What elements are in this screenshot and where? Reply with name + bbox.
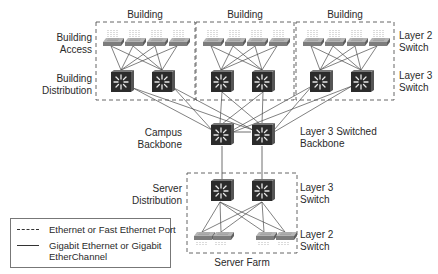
- building-label-3: Building: [320, 9, 370, 21]
- switched-backbone-label: Layer 3 Switched Backbone: [300, 126, 377, 149]
- building-distribution-label: Building Distribution: [20, 73, 92, 96]
- layer3-switch-label: Layer 3 Switch: [399, 70, 432, 93]
- server-access-switches: [194, 232, 297, 246]
- campus-backbone-label: Campus Backbone: [110, 127, 182, 150]
- server-layer3-switch-label: Layer 3 Switch: [300, 182, 333, 205]
- access-distribution-links: [111, 46, 377, 70]
- dashed-line-swatch: [17, 229, 39, 230]
- building-label-1: Building: [120, 9, 170, 21]
- building-access-switches: [103, 30, 390, 46]
- server-distribution-label: Server Distribution: [110, 183, 182, 206]
- building-access-label: Building Access: [20, 32, 92, 55]
- server-layer2-switch-label: Layer 2 Switch: [300, 229, 333, 252]
- solid-line-swatch: [17, 245, 39, 246]
- legend: Ethernet or Fast Ethernet Port Gigabit E…: [10, 218, 171, 268]
- building-label-2: Building: [220, 9, 270, 21]
- server-farm-label: Server Farm: [202, 257, 282, 269]
- layer2-switch-label: Layer 2 Switch: [399, 30, 432, 53]
- server-distribution-switches: [211, 179, 275, 201]
- server-links: [202, 202, 285, 232]
- building-distribution-switches: [111, 70, 374, 92]
